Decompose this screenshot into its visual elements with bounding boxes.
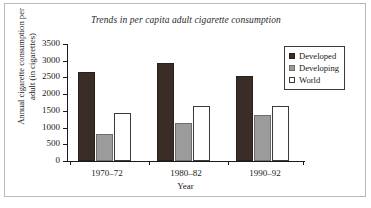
y-tick: 2000: [63, 94, 67, 95]
y-tick-label: 2500: [42, 71, 60, 81]
bar-groups: [68, 44, 305, 161]
bar-group: [78, 44, 138, 161]
y-tick-label: 1500: [42, 105, 60, 115]
x-category-label: 1990–92: [235, 168, 295, 178]
x-axis-line: [67, 161, 305, 162]
x-axis-label: Year: [67, 181, 304, 191]
y-axis-label: Annual cigarette consumption per adult (…: [16, 2, 37, 132]
legend-label-developing: Developing: [299, 63, 339, 73]
x-tick: [70, 161, 71, 165]
y-tick-label: 500: [47, 138, 61, 148]
y-tick: 3500: [63, 44, 67, 45]
bar-developed: [157, 63, 174, 161]
x-category-label: 1980–82: [156, 168, 216, 178]
bar-developed: [236, 76, 253, 161]
bar-group: [157, 44, 217, 161]
y-tick-label: 0: [56, 155, 61, 165]
bar-world: [193, 106, 210, 161]
y-tick: 0: [63, 161, 67, 162]
y-tick: 1500: [63, 111, 67, 112]
y-tick-label: 1000: [42, 122, 60, 132]
y-tick-label: 2000: [42, 88, 60, 98]
y-axis-label-line2: adult (in cigarettes): [26, 2, 37, 132]
y-tick: 500: [63, 144, 67, 145]
bar-developing: [254, 115, 271, 161]
legend-swatch-developed-icon: [289, 53, 295, 59]
figure-frame: Trends in per capita adult cigarette con…: [4, 3, 366, 197]
x-tick: [303, 161, 304, 165]
chart-title: Trends in per capita adult cigarette con…: [5, 15, 367, 25]
bar-world: [114, 113, 131, 161]
figure-root: Trends in per capita adult cigarette con…: [0, 0, 371, 208]
plot-area: 0500100015002000250030003500 1970–721980…: [67, 44, 263, 161]
legend-swatch-developing-icon: [289, 65, 295, 71]
x-tick: [149, 161, 150, 165]
y-tick: 2500: [63, 77, 67, 78]
x-tick: [228, 161, 229, 165]
bar-developing: [96, 134, 113, 161]
legend-item-developing: Developing: [289, 62, 339, 74]
y-axis-label-line1: Annual cigarette consumption per: [16, 8, 26, 125]
legend-item-developed: Developed: [289, 50, 339, 62]
legend-swatch-world-icon: [289, 77, 295, 83]
legend-label-world: World: [299, 75, 320, 85]
y-tick: 3000: [63, 61, 67, 62]
bar-developing: [175, 123, 192, 161]
bar-developed: [78, 72, 95, 161]
bar-world: [272, 106, 289, 161]
x-category-label: 1970–72: [77, 168, 137, 178]
y-tick-label: 3000: [42, 55, 60, 65]
chart-legend: Developed Developing World: [284, 46, 345, 90]
legend-label-developed: Developed: [299, 51, 336, 61]
y-tick-label: 3500: [42, 38, 60, 48]
y-tick: 1000: [63, 128, 67, 129]
legend-item-world: World: [289, 74, 339, 86]
